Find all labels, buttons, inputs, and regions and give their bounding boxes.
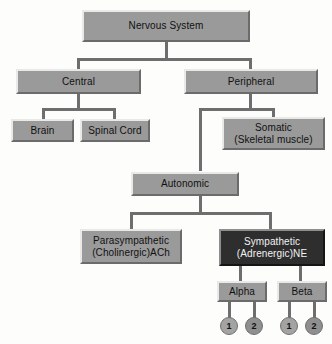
connector-autonomic-bar [130,212,272,215]
node-alpha[interactable]: Alpha [217,281,267,302]
node-sympathetic-line2: (Adrenergic)NE [237,248,307,259]
node-somatic-line2: (Skeletal muscle) [234,134,312,145]
node-autonomic[interactable]: Autonomic [131,172,239,196]
node-spinal-cord-label: Spinal Cord [82,125,148,137]
node-sympathetic-line1: Sympathetic [244,236,300,247]
connector-root-stem [165,41,168,59]
node-somatic-label: Somatic (Skeletal muscle) [224,122,323,146]
node-beta-1-label: 1 [286,321,291,331]
connector-central-bar [42,108,116,111]
connector-peripheral-stem [249,93,252,109]
node-central-label: Central [18,76,139,88]
node-peripheral[interactable]: Peripheral [184,69,318,94]
node-beta-label: Beta [279,286,325,298]
connector-beta-2-drop [313,302,316,318]
connector-beta-1-drop [288,302,291,318]
node-alpha-label: Alpha [219,286,265,298]
node-somatic-line1: Somatic [255,122,292,133]
node-alpha-1[interactable]: 1 [220,317,238,335]
node-somatic[interactable]: Somatic (Skeletal muscle) [222,117,325,150]
node-nervous-system-label: Nervous System [84,20,248,32]
connector-central-stem [77,93,80,109]
node-parasympathetic-line2: (Cholinergic)ACh [92,247,170,258]
node-parasympathetic-line1: Parasympathetic [93,235,169,246]
connector-alpha-2-drop [253,302,256,318]
node-beta-1[interactable]: 1 [280,317,298,335]
node-sympathetic[interactable]: Sympathetic (Adrenergic)NE [219,229,325,266]
node-brain[interactable]: Brain [11,119,74,142]
connector-autonomic-drop [199,108,202,171]
node-alpha-1-label: 1 [226,321,231,331]
node-parasympathetic-label: Parasympathetic (Cholinergic)ACh [82,235,180,259]
node-nervous-system[interactable]: Nervous System [82,10,250,42]
node-autonomic-label: Autonomic [133,178,237,190]
node-brain-label: Brain [13,125,72,137]
node-spinal-cord[interactable]: Spinal Cord [80,119,150,142]
node-beta-2[interactable]: 2 [305,317,323,335]
connector-parasympathetic-drop [130,212,133,230]
node-sympathetic-label: Sympathetic (Adrenergic)NE [221,236,323,260]
node-beta[interactable]: Beta [277,281,327,302]
connector-alpha-1-drop [228,302,231,318]
node-parasympathetic[interactable]: Parasympathetic (Cholinergic)ACh [80,229,182,264]
connector-alpha-drop [239,266,242,282]
nervous-system-diagram: Nervous System Central Peripheral Brain … [0,0,332,344]
node-peripheral-label: Peripheral [186,76,316,88]
node-beta-2-label: 2 [311,321,316,331]
connector-sympathetic-drop [269,212,272,230]
node-alpha-2[interactable]: 2 [245,317,263,335]
connector-peripheral-bar [199,108,275,111]
connector-root-bar [77,58,252,61]
node-alpha-2-label: 2 [251,321,256,331]
connector-beta-drop [299,266,302,282]
connector-autonomic-stem [199,196,202,213]
node-central[interactable]: Central [16,69,141,94]
